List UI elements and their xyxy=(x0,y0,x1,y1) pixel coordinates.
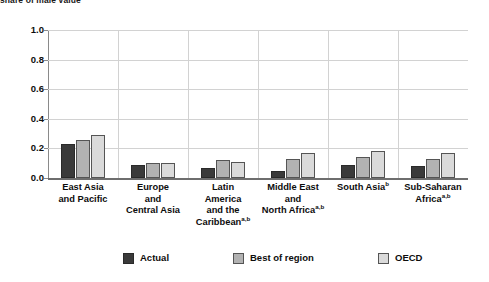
legend-swatch-oecd xyxy=(378,253,389,264)
legend-swatch-actual xyxy=(123,253,134,264)
x-axis-label-footnote-marker: b xyxy=(385,180,389,187)
bar xyxy=(76,140,91,178)
bar xyxy=(271,171,286,178)
x-axis-label-line: Sub-Saharan xyxy=(398,182,468,194)
bar xyxy=(301,153,316,178)
bar xyxy=(341,165,356,178)
legend-label: Best of region xyxy=(250,253,314,263)
y-axis-tick xyxy=(44,60,48,61)
x-axis-label-line: Central Asia xyxy=(118,205,188,217)
bar xyxy=(286,159,301,178)
y-axis-tick xyxy=(44,89,48,90)
bar xyxy=(231,162,246,178)
bar xyxy=(356,157,371,178)
x-axis-category-label: Sub-SaharanAfricaa,b xyxy=(398,182,468,205)
x-axis-label-footnote-marker: a,b xyxy=(315,203,324,210)
bar xyxy=(61,144,76,178)
y-axis-tick xyxy=(44,148,48,149)
group-separator xyxy=(188,30,189,178)
group-separator xyxy=(258,30,259,178)
bar xyxy=(146,163,161,178)
x-axis-label-line: Caribbeana,b xyxy=(188,217,258,229)
x-axis-label-footnote-marker: a,b xyxy=(442,191,451,198)
legend-label: OECD xyxy=(395,253,422,263)
x-axis-category-label: EuropeandCentral Asia xyxy=(118,182,188,217)
x-axis-labels: East Asiaand PacificEuropeandCentral Asi… xyxy=(48,182,468,238)
y-axis-tick-label: 0.8 xyxy=(4,55,44,65)
x-axis-label-line: and xyxy=(118,194,188,206)
bar xyxy=(216,160,231,178)
bar xyxy=(426,159,441,178)
x-axis-label-line: Latin xyxy=(188,182,258,194)
bar xyxy=(371,151,386,178)
legend-label: Actual xyxy=(140,253,169,263)
x-axis-label-line: North Africaa,b xyxy=(258,205,328,217)
y-axis-tick-label: 0.0 xyxy=(4,173,44,183)
x-axis-line xyxy=(48,178,468,180)
bar-chart-figure: share of male value 1.00.80.60.40.20.0 E… xyxy=(0,0,489,282)
bar xyxy=(201,168,216,178)
y-axis-tick xyxy=(44,119,48,120)
y-axis-tick-label: 0.2 xyxy=(4,143,44,153)
y-axis-line xyxy=(48,30,49,178)
x-axis-label-footnote-marker: a,b xyxy=(241,214,250,221)
plot-area xyxy=(48,30,468,178)
x-axis-label-line: East Asia xyxy=(48,182,118,194)
group-separator xyxy=(328,30,329,178)
x-axis-label-line: and Pacific xyxy=(48,194,118,206)
x-axis-label-line: Africaa,b xyxy=(398,194,468,206)
legend-swatch-best xyxy=(233,253,244,264)
bar xyxy=(411,166,426,178)
x-axis-category-label: South Asiab xyxy=(328,182,398,194)
x-axis-label-line: Europe xyxy=(118,182,188,194)
x-axis-category-label: East Asiaand Pacific xyxy=(48,182,118,205)
y-axis-labels: 1.00.80.60.40.20.0 xyxy=(0,0,44,282)
legend-item: Best of region xyxy=(233,250,314,266)
bar xyxy=(131,165,146,178)
chart-legend: ActualBest of regionOECD xyxy=(48,250,468,270)
group-separator xyxy=(398,30,399,178)
figure-caption-strip: share of male value xyxy=(0,0,489,9)
group-separator xyxy=(118,30,119,178)
y-axis-tick-label: 0.4 xyxy=(4,114,44,124)
x-axis-category-label: LatinAmericaand theCaribbeana,b xyxy=(188,182,258,228)
legend-item: OECD xyxy=(378,250,422,266)
y-axis-tick xyxy=(44,178,48,179)
y-axis-tick-label: 0.6 xyxy=(4,84,44,94)
bar xyxy=(161,163,176,178)
bar xyxy=(441,153,456,178)
y-axis-tick xyxy=(44,30,48,31)
x-axis-label-line: South Asiab xyxy=(328,182,398,194)
x-axis-label-line: America xyxy=(188,194,258,206)
x-axis-category-label: Middle EastandNorth Africaa,b xyxy=(258,182,328,217)
y-axis-tick-label: 1.0 xyxy=(4,25,44,35)
legend-item: Actual xyxy=(123,250,169,266)
x-axis-label-line: Middle East xyxy=(258,182,328,194)
bar xyxy=(91,135,106,178)
